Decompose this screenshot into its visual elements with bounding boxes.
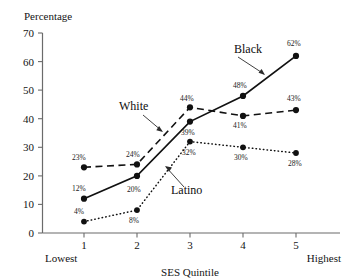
y-tick-label-0: 0 [29, 227, 35, 239]
series-annotation-latino: Latino [171, 183, 202, 197]
x-axis-title: SES Quintile [161, 266, 219, 278]
x-tick-label-5: 5 [293, 239, 299, 251]
series-annotation-black: Black [234, 42, 262, 56]
point-label-black-1: 12% [72, 184, 86, 193]
x-axis-lowest-label: Lowest [45, 252, 77, 264]
y-tick-label-30: 30 [23, 141, 35, 153]
y-tick-label-60: 60 [23, 56, 35, 68]
point-label-white-3: 44% [180, 94, 194, 103]
y-tick-label-10: 10 [23, 198, 35, 210]
point-label-latino-2: 8% [129, 216, 139, 225]
y-tick-label-50: 50 [23, 84, 35, 96]
y-tick-label-70: 70 [23, 27, 35, 39]
point-label-black-3: 39% [181, 128, 195, 137]
point-label-black-4: 48% [233, 81, 247, 90]
point-label-latino-3: 32% [182, 148, 196, 157]
series-annotation-white: White [119, 99, 148, 113]
point-label-latino-1: 4% [74, 207, 84, 216]
x-tick-label-3: 3 [187, 239, 193, 251]
line-chart: 70 60 50 40 30 20 10 0 Percentage 1 2 3 … [0, 0, 354, 280]
point-label-white-1: 23% [72, 153, 86, 162]
x-tick-label-2: 2 [134, 239, 140, 251]
point-label-latino-4: 30% [234, 153, 248, 162]
x-axis-highest-label: Highest [307, 252, 341, 264]
x-tick-marks [84, 233, 296, 238]
leader-arrowhead-black [259, 69, 266, 75]
point-label-white-2: 24% [126, 150, 140, 159]
point-label-black-2: 20% [127, 185, 141, 194]
point-label-black-5: 62% [287, 39, 301, 48]
y-axis-title: Percentage [24, 10, 72, 22]
x-tick-label-1: 1 [81, 239, 87, 251]
point-label-white-5: 43% [287, 94, 301, 103]
point-label-latino-5: 28% [288, 159, 302, 168]
y-tick-label-20: 20 [23, 170, 35, 182]
chart-container: 70 60 50 40 30 20 10 0 Percentage 1 2 3 … [0, 0, 354, 280]
point-label-white-4: 41% [233, 121, 247, 130]
y-tick-marks [38, 33, 43, 233]
series-line-white [84, 107, 296, 167]
leader-arrowhead-latino [165, 166, 172, 172]
y-tick-label-40: 40 [23, 113, 35, 125]
x-tick-label-4: 4 [240, 239, 246, 251]
